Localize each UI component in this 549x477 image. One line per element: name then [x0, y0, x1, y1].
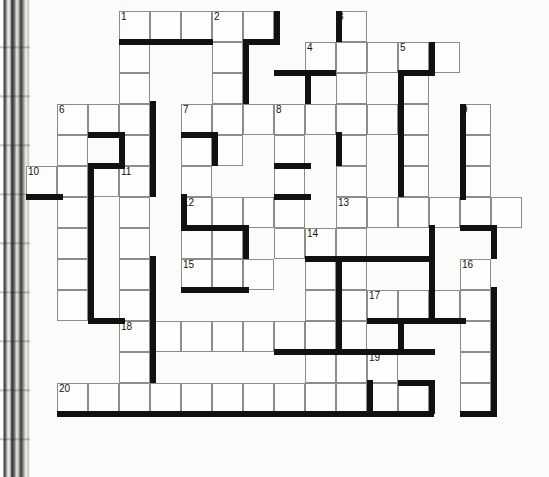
grid-shadow-edge [336, 11, 342, 42]
grid-shadow-edge [367, 318, 466, 324]
crossword-cell[interactable] [398, 383, 429, 414]
crossword-cell-numbered-19[interactable]: 19 [367, 352, 398, 383]
crossword-cell-numbered-14[interactable]: 14 [305, 228, 336, 259]
crossword-cell[interactable] [336, 228, 367, 259]
crossword-cell[interactable] [181, 135, 212, 166]
crossword-cell[interactable] [460, 197, 491, 228]
crossword-cell[interactable] [274, 166, 305, 197]
crossword-cell[interactable] [274, 383, 305, 414]
crossword-cell[interactable] [212, 259, 243, 290]
crossword-cell[interactable] [336, 73, 367, 104]
crossword-cell[interactable] [119, 228, 150, 259]
crossword-cell[interactable] [243, 197, 274, 228]
crossword-cell[interactable] [460, 321, 491, 352]
crossword-cell[interactable] [305, 259, 336, 290]
crossword-cell[interactable] [181, 228, 212, 259]
crossword-cell[interactable] [212, 197, 243, 228]
crossword-cell-numbered-6[interactable]: 6 [57, 104, 88, 135]
grid-shadow-edge [243, 42, 249, 104]
crossword-cell[interactable] [243, 321, 274, 352]
crossword-cell[interactable] [274, 135, 305, 166]
crossword-cell[interactable] [305, 290, 336, 321]
crossword-cell[interactable] [119, 383, 150, 414]
crossword-cell[interactable] [150, 11, 181, 42]
crossword-cell-numbered-11[interactable]: 11 [119, 166, 150, 197]
crossword-cell[interactable] [57, 135, 88, 166]
crossword-cell[interactable] [150, 383, 181, 414]
crossword-cell[interactable] [212, 321, 243, 352]
grid-shadow-edge [305, 70, 311, 104]
crossword-cell[interactable] [460, 383, 491, 414]
clue-number-17: 17 [369, 290, 380, 301]
crossword-cell[interactable] [57, 259, 88, 290]
crossword-cell-numbered-10[interactable]: 10 [26, 166, 57, 197]
crossword-cell[interactable] [336, 42, 367, 73]
crossword-cell[interactable] [212, 42, 243, 73]
clue-number-8: 8 [276, 104, 282, 115]
crossword-cell[interactable] [243, 11, 274, 42]
crossword-cell[interactable] [119, 352, 150, 383]
crossword-cell[interactable] [181, 383, 212, 414]
crossword-cell-numbered-13[interactable]: 13 [336, 197, 367, 228]
crossword-cell[interactable] [212, 104, 243, 135]
crossword-grid[interactable]: 1234567891011121314151617181920 [0, 0, 549, 477]
crossword-cell[interactable] [460, 290, 491, 321]
crossword-cell[interactable] [119, 104, 150, 135]
crossword-cell[interactable] [181, 11, 212, 42]
grid-shadow-edge [305, 256, 435, 262]
crossword-cell[interactable] [491, 197, 522, 228]
crossword-cell[interactable] [398, 290, 429, 321]
crossword-cell[interactable] [88, 104, 119, 135]
crossword-cell[interactable] [460, 352, 491, 383]
crossword-cell[interactable] [367, 42, 398, 73]
crossword-cell[interactable] [88, 383, 119, 414]
crossword-cell[interactable] [243, 104, 274, 135]
crossword-cell-numbered-5[interactable]: 5 [398, 42, 429, 73]
crossword-cell[interactable] [243, 383, 274, 414]
crossword-cell-numbered-1[interactable]: 1 [119, 11, 150, 42]
crossword-cell[interactable] [305, 321, 336, 352]
crossword-cell[interactable] [274, 228, 305, 259]
crossword-cell[interactable] [119, 73, 150, 104]
crossword-cell[interactable] [336, 352, 367, 383]
clue-number-5: 5 [400, 42, 406, 53]
crossword-cell-numbered-7[interactable]: 7 [181, 104, 212, 135]
crossword-cell-numbered-8[interactable]: 8 [274, 104, 305, 135]
crossword-cell[interactable] [57, 290, 88, 321]
crossword-cell-numbered-4[interactable]: 4 [305, 42, 336, 73]
crossword-cell[interactable] [367, 197, 398, 228]
crossword-cell[interactable] [305, 352, 336, 383]
crossword-cell[interactable] [212, 73, 243, 104]
crossword-cell[interactable] [57, 197, 88, 228]
crossword-cell[interactable] [181, 321, 212, 352]
crossword-cell[interactable] [336, 383, 367, 414]
crossword-cell[interactable] [57, 228, 88, 259]
crossword-cell[interactable] [243, 259, 274, 290]
crossword-cell[interactable] [181, 166, 212, 197]
grid-shadow-edge [181, 287, 249, 293]
crossword-cell[interactable] [398, 197, 429, 228]
crossword-cell[interactable] [57, 166, 88, 197]
crossword-cell[interactable] [119, 197, 150, 228]
crossword-cell-numbered-2[interactable]: 2 [212, 11, 243, 42]
crossword-cell[interactable] [119, 42, 150, 73]
crossword-cell-numbered-17[interactable]: 17 [367, 290, 398, 321]
crossword-cell[interactable] [336, 166, 367, 197]
crossword-cell[interactable] [274, 197, 305, 228]
crossword-cell-numbered-18[interactable]: 18 [119, 321, 150, 352]
crossword-cell[interactable] [305, 383, 336, 414]
crossword-cell-numbered-15[interactable]: 15 [181, 259, 212, 290]
crossword-cell-numbered-20[interactable]: 20 [57, 383, 88, 414]
crossword-cell[interactable] [274, 321, 305, 352]
grid-shadow-edge [57, 411, 434, 417]
crossword-cell[interactable] [212, 228, 243, 259]
crossword-cell[interactable] [119, 290, 150, 321]
crossword-cell[interactable] [429, 197, 460, 228]
crossword-cell[interactable] [212, 383, 243, 414]
crossword-cell[interactable] [305, 104, 336, 135]
crossword-cell[interactable] [119, 259, 150, 290]
grid-shadow-edge [243, 225, 249, 259]
crossword-cell-numbered-16[interactable]: 16 [460, 259, 491, 290]
crossword-cell[interactable] [367, 104, 398, 135]
crossword-cell[interactable] [336, 104, 367, 135]
